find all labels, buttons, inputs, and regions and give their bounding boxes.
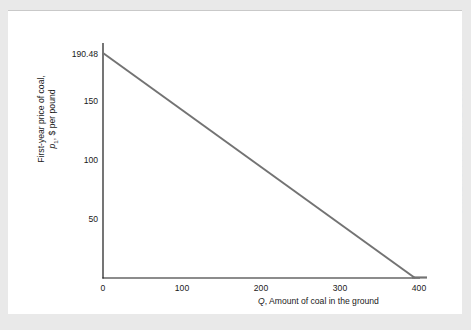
x-tick-label-100: 100 (166, 283, 198, 293)
chart-panel: First-year price of coal, p1, $ per poun… (8, 10, 462, 314)
x-tick-label-400: 400 (403, 283, 435, 293)
y-tick-label-150: 150 (56, 96, 98, 106)
x-tick-label-300: 300 (324, 283, 356, 293)
y-axis-label-line1: First-year price of coal, (36, 75, 46, 162)
y-axis-label-symbol: p (47, 144, 57, 149)
y-tick-label-50: 50 (56, 214, 98, 224)
x-axis-label-rest: , Amount of coal in the ground (265, 296, 379, 306)
x-tick-label-0: 0 (87, 283, 119, 293)
x-axis-label-symbol: Q (258, 296, 265, 306)
figure-background: UNIVERSITY ARCHIVE SCAN UNIVERSITY ARCHI… (0, 0, 471, 330)
plot-area: First-year price of coal, p1, $ per poun… (8, 11, 462, 314)
x-tick-label-200: 200 (245, 283, 277, 293)
y-axis-label: First-year price of coal, p1, $ per poun… (36, 39, 60, 199)
y-axis-label-subscript: 1 (52, 140, 59, 143)
x-axis-label: Q, Amount of coal in the ground (258, 296, 379, 308)
y-tick-label-19048: 190.48 (56, 49, 98, 59)
y-tick-label-100: 100 (56, 155, 98, 165)
demand-curve-line (103, 53, 415, 278)
